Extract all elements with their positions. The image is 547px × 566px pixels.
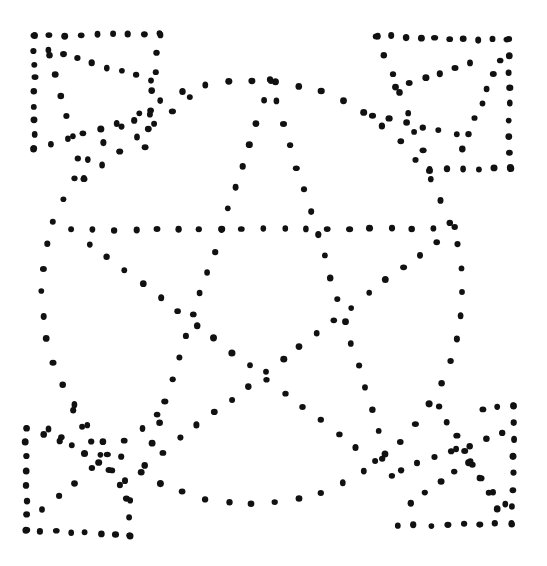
dot	[48, 141, 54, 148]
dot	[126, 532, 132, 538]
dot	[395, 523, 401, 529]
dot	[179, 489, 186, 495]
dot	[318, 88, 325, 94]
dot	[509, 503, 515, 509]
dot	[22, 438, 29, 445]
dot	[301, 186, 307, 192]
dot	[121, 267, 127, 273]
dot	[510, 487, 517, 493]
dot	[30, 48, 36, 54]
dot	[38, 288, 44, 294]
dot	[494, 404, 500, 410]
dot	[31, 116, 38, 123]
dot	[112, 531, 119, 537]
dot	[104, 65, 110, 72]
dot	[303, 225, 309, 232]
dot	[157, 32, 163, 39]
dot	[342, 318, 349, 325]
dot	[420, 147, 427, 153]
dot	[389, 225, 395, 232]
dot	[386, 115, 393, 121]
dot	[453, 446, 459, 453]
dot	[52, 71, 59, 77]
dot	[414, 460, 420, 466]
dot	[494, 505, 501, 512]
dot	[89, 59, 95, 66]
dot	[70, 133, 76, 139]
dot	[161, 399, 168, 405]
dot	[331, 317, 338, 323]
dot	[50, 219, 56, 225]
dot	[410, 521, 416, 528]
dot	[41, 313, 47, 320]
dot	[315, 231, 321, 238]
dot	[411, 129, 417, 135]
dot	[95, 459, 102, 466]
dot	[60, 196, 66, 202]
dot	[225, 78, 232, 85]
dot	[253, 120, 260, 127]
dot	[435, 127, 441, 133]
dot	[85, 156, 91, 163]
dot	[104, 452, 111, 458]
dot	[369, 406, 375, 412]
dot	[56, 493, 62, 499]
dot	[451, 224, 457, 230]
dot	[422, 490, 428, 496]
dot	[274, 98, 280, 105]
dot	[507, 164, 514, 171]
dot	[505, 36, 512, 42]
dot	[398, 467, 404, 473]
dot	[447, 358, 453, 364]
dot	[446, 36, 453, 42]
dot	[511, 436, 517, 443]
dot	[379, 122, 385, 129]
dot	[31, 33, 38, 39]
dot	[418, 35, 425, 42]
dot	[431, 225, 437, 231]
dot	[480, 101, 486, 107]
dot	[211, 409, 218, 415]
dot	[490, 36, 496, 42]
dot	[46, 426, 52, 433]
dot	[23, 453, 29, 459]
dot	[510, 453, 517, 460]
dot	[340, 479, 346, 486]
dot	[44, 241, 50, 247]
dot	[506, 85, 513, 92]
corner-motif-top-left	[30, 30, 193, 182]
dot	[490, 489, 496, 496]
dot	[417, 252, 423, 259]
dot	[57, 438, 63, 445]
dot	[23, 482, 29, 489]
dot	[296, 343, 303, 350]
dot	[382, 276, 389, 283]
dot	[177, 435, 183, 441]
dot	[31, 62, 37, 68]
dot	[459, 265, 465, 271]
dot	[437, 70, 443, 77]
dot	[80, 176, 87, 182]
dot	[71, 480, 78, 486]
dot	[447, 220, 454, 226]
dot	[458, 312, 464, 319]
dot	[136, 110, 142, 116]
dot	[65, 136, 71, 143]
dot	[476, 166, 482, 172]
dot	[461, 448, 468, 454]
dot	[318, 417, 324, 423]
dot	[134, 227, 140, 234]
dot	[263, 377, 269, 383]
dot	[318, 490, 324, 496]
dot	[212, 249, 218, 255]
dot	[118, 454, 124, 460]
dot	[149, 440, 156, 447]
dot	[296, 495, 303, 502]
dot	[100, 438, 107, 445]
dot	[140, 425, 146, 432]
dot	[40, 431, 47, 438]
dot	[408, 500, 414, 507]
dot	[282, 391, 288, 397]
dot	[497, 58, 504, 64]
dot	[226, 499, 232, 505]
